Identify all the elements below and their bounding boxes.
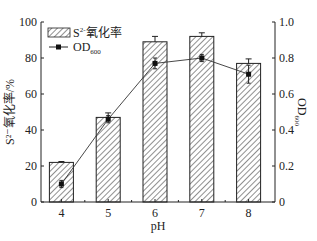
legend-line-label: OD600 — [73, 40, 101, 56]
od-marker — [153, 61, 158, 66]
y-tick-left: 100 — [19, 15, 37, 29]
y-tick-left: 0 — [31, 195, 37, 209]
y-axis-right-label: OD600 — [293, 98, 309, 126]
y-tick-right: 0.8 — [279, 51, 294, 65]
bar — [237, 63, 261, 202]
y-tick-left: 60 — [25, 87, 37, 101]
y-axis-left-label: S²⁻氧化率/% — [2, 79, 17, 145]
od-marker — [106, 117, 111, 122]
x-tick: 4 — [58, 206, 64, 220]
x-tick: 7 — [199, 206, 205, 220]
x-tick: 5 — [105, 206, 111, 220]
y-tick-right: 0.4 — [279, 123, 294, 137]
od-marker — [199, 56, 204, 61]
legend: S2-氧化率 OD600 — [48, 25, 122, 56]
y-tick-right: 0 — [279, 195, 285, 209]
x-tick: 6 — [152, 206, 158, 220]
y-tick-right: 0.2 — [279, 159, 294, 173]
legend-bar-label: S2-氧化率 — [73, 25, 122, 40]
legend-line-marker — [56, 45, 61, 50]
x-axis-label: pH — [151, 219, 166, 233]
chart: 02040608010000.20.40.60.81.045678 S2-氧化率… — [0, 0, 317, 241]
y-tick-left: 40 — [25, 123, 37, 137]
y-tick-left: 20 — [25, 159, 37, 173]
y-tick-right: 1.0 — [279, 15, 294, 29]
x-tick: 8 — [246, 206, 252, 220]
y-tick-left: 80 — [25, 51, 37, 65]
od-marker — [59, 182, 64, 187]
od-marker — [246, 72, 251, 77]
legend-bar-swatch — [48, 28, 70, 37]
y-tick-right: 0.6 — [279, 87, 294, 101]
